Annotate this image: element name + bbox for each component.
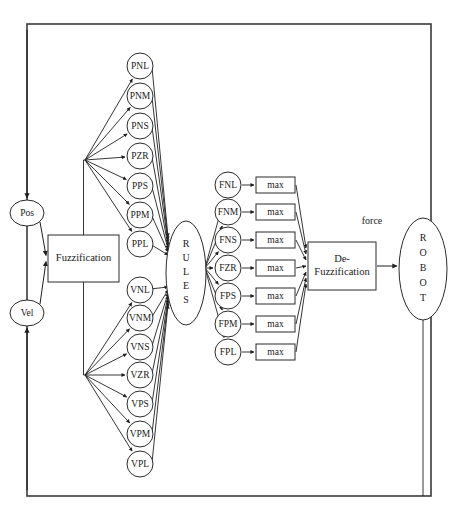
max-block-label-1: max: [267, 207, 284, 217]
pnm-label: PNM: [130, 91, 151, 101]
vpl-label: VPL: [131, 459, 149, 469]
position-set-node-ppl[interactable]: PPL: [127, 231, 153, 257]
force-set-node-fps[interactable]: FPS: [215, 283, 241, 309]
fuzzification-label-line-0: Fuzzification: [56, 252, 112, 263]
edge-v-3-to-rules: [152, 296, 168, 374]
max-block-3[interactable]: max: [256, 260, 295, 276]
fpm-label: FPM: [218, 319, 238, 329]
velocity-set-node-vnm[interactable]: VNM: [127, 305, 153, 331]
edge-v-0-to-rules: [152, 287, 168, 289]
edge-v-5-to-rules: [152, 302, 168, 433]
rules-letter-4: S: [183, 294, 189, 305]
robot-node[interactable]: ROBOT: [399, 218, 447, 320]
max-block-label-6: max: [267, 347, 284, 357]
edge-fuzzification-to-p-2: [85, 134, 127, 160]
force-set-node-fns[interactable]: FNS: [215, 227, 241, 253]
edge-fuzzification-to-v-5: [85, 375, 130, 423]
block-defuzzification[interactable]: De-Fuzzification: [308, 242, 376, 290]
velocity-set-node-vpm[interactable]: VPM: [127, 421, 153, 447]
position-set-node-pns[interactable]: PNS: [127, 113, 153, 139]
fpl-label: FPL: [220, 347, 237, 357]
robot-letter-3: O: [419, 277, 426, 288]
fnl-label: FNL: [219, 180, 237, 190]
max-block-0[interactable]: max: [256, 177, 295, 193]
edge-p-2-to-rules: [152, 127, 168, 243]
ppm-label: PPM: [130, 210, 150, 220]
vns-label: VNS: [130, 342, 149, 352]
diagram-nodes: PosVelFuzzificationDe-FuzzificationRULES…: [10, 53, 447, 477]
velocity-set-node-vnl[interactable]: VNL: [127, 277, 153, 303]
edge-fuzzification-to-v-6: [85, 375, 132, 451]
defuzzification-label-line-1: Fuzzification: [314, 266, 370, 277]
max-block-6[interactable]: max: [256, 344, 295, 360]
edge-fuzzification-to-v-4: [85, 375, 127, 397]
edge-fuzzification-to-p-1: [85, 107, 130, 160]
fps-label: FPS: [220, 291, 236, 301]
pzr-label: PZR: [131, 151, 149, 161]
force-set-node-fpm[interactable]: FPM: [215, 311, 241, 337]
pns-label: PNS: [131, 121, 148, 131]
robot-letter-4: T: [420, 292, 426, 303]
force-set-node-fnl[interactable]: FNL: [215, 172, 241, 198]
input-node-pos[interactable]: Pos: [10, 200, 44, 226]
edge-fuzzification-to-p-5: [85, 160, 129, 204]
vps-label: VPS: [131, 399, 148, 409]
velocity-set-node-vzr[interactable]: VZR: [127, 362, 153, 388]
pnl-label: PNL: [131, 61, 149, 71]
position-set-node-ppm[interactable]: PPM: [127, 202, 153, 228]
rules-letter-2: L: [183, 266, 189, 277]
fuzzy-control-diagram: PosVelFuzzificationDe-FuzzificationRULES…: [0, 0, 456, 530]
edge-pos-to-fuzzification: [40, 222, 46, 256]
edge-max-3-to-defuzzification: [296, 266, 306, 268]
force-set-node-fpl[interactable]: FPL: [215, 339, 241, 365]
edge-fuzzification-to-v-0: [85, 303, 132, 375]
fnm-label: FNM: [218, 207, 239, 217]
vnl-label: VNL: [130, 285, 150, 295]
max-block-4[interactable]: max: [256, 288, 295, 304]
block-fuzzification[interactable]: Fuzzification: [48, 235, 119, 282]
rules-letter-3: E: [183, 280, 189, 291]
ppl-label: PPL: [132, 239, 149, 249]
edge-v-6-to-rules: [152, 305, 168, 463]
velocity-set-node-vns[interactable]: VNS: [127, 334, 153, 360]
max-block-label-2: max: [267, 235, 284, 245]
force-set-node-fzr[interactable]: FZR: [215, 255, 241, 281]
velocity-set-node-vpl[interactable]: VPL: [127, 451, 153, 477]
vnm-label: VNM: [129, 313, 152, 323]
force-set-node-fnm[interactable]: FNM: [215, 199, 241, 225]
edge-fuzzification-to-v-1: [85, 329, 130, 375]
vzr-label: VZR: [131, 370, 151, 380]
input-node-vel[interactable]: Vel: [10, 300, 44, 326]
defuzzification-label-line-0: De-: [334, 253, 350, 264]
vel-label: Vel: [21, 308, 34, 318]
rules-letter-1: U: [182, 252, 190, 263]
fzr-label: FZR: [219, 263, 237, 273]
edge-fuzzification-to-p-0: [85, 79, 132, 160]
rules-letter-0: R: [183, 238, 190, 249]
edge-vel-to-fuzzification: [40, 262, 46, 305]
max-block-5[interactable]: max: [256, 316, 295, 332]
pos-label: Pos: [20, 208, 34, 218]
robot-letter-1: O: [419, 247, 426, 258]
edge-fuzzification-to-p-3: [85, 157, 125, 160]
position-set-node-pnm[interactable]: PNM: [127, 83, 153, 109]
fns-label: FNS: [219, 235, 236, 245]
velocity-set-node-vps[interactable]: VPS: [127, 391, 153, 417]
position-set-node-pzr[interactable]: PZR: [127, 143, 153, 169]
diagram-canvas: PosVelFuzzificationDe-FuzzificationRULES…: [0, 0, 456, 530]
max-block-label-0: max: [267, 180, 284, 190]
max-block-label-5: max: [267, 319, 284, 329]
edge-fuzzification-to-v-2: [85, 354, 127, 375]
max-block-1[interactable]: max: [256, 204, 295, 220]
max-block-label-4: max: [267, 291, 284, 301]
vpm-label: VPM: [130, 429, 151, 439]
max-block-2[interactable]: max: [256, 232, 295, 248]
rules-node[interactable]: RULES: [166, 221, 206, 325]
edge-max-2-to-defuzzification: [296, 240, 306, 260]
position-set-node-pps[interactable]: PPS: [127, 173, 153, 199]
robot-letter-2: B: [420, 262, 427, 273]
pps-label: PPS: [132, 181, 148, 191]
position-set-node-pnl[interactable]: PNL: [127, 53, 153, 79]
max-block-label-3: max: [267, 263, 284, 273]
edge-p-0-to-rules: [152, 67, 168, 237]
